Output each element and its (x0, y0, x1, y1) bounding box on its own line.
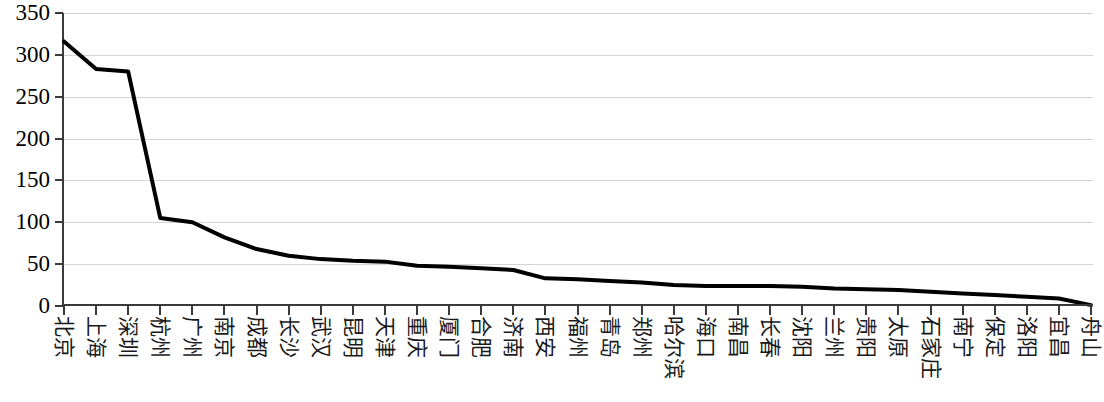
x-axis-tickmark (288, 306, 290, 315)
x-axis-tick-label: 石家庄 (918, 316, 944, 402)
y-axis-tick-label: 100 (16, 210, 51, 233)
y-axis-tickmark (55, 179, 63, 181)
x-axis-tickmark (930, 306, 932, 315)
y-axis-tick-label: 150 (16, 168, 51, 191)
x-axis-tick-label: 上海 (83, 316, 109, 402)
x-axis-tick-label: 哈尔滨 (661, 316, 687, 402)
x-axis-tick-label: 郑州 (629, 316, 655, 402)
y-axis-tickmark (55, 221, 63, 223)
x-axis-tickmark (480, 306, 482, 315)
x-axis-tick-label: 南宁 (950, 316, 976, 402)
x-axis-tick-label: 杭州 (147, 316, 173, 402)
x-axis-tick-label: 福州 (565, 316, 591, 402)
x-axis-tick-label: 广州 (179, 316, 205, 402)
x-axis-tick-label: 舟山 (1078, 316, 1104, 402)
x-axis-tickmark (833, 306, 835, 315)
y-axis-label-group: 050100150200250300350 (0, 0, 56, 312)
x-axis-tickmark (352, 306, 354, 315)
x-axis-label-group: 北京上海深圳杭州广州南京成都长沙武汉昆明天津重庆厦门合肥济南西安福州青岛郑州哈尔… (64, 316, 1093, 402)
x-axis-tick-label: 合肥 (468, 316, 494, 402)
x-axis-tick-label: 长沙 (276, 316, 302, 402)
x-axis-tick-label: 长春 (757, 316, 783, 402)
x-axis-tickmark (641, 306, 643, 315)
y-axis-tick-label: 50 (27, 252, 50, 275)
y-axis-tickmark (55, 96, 63, 98)
y-axis-tick-label: 200 (16, 127, 51, 150)
x-axis-tickmark (737, 306, 739, 315)
x-axis-tick-label: 济南 (500, 316, 526, 402)
x-axis-tick-label: 洛阳 (1014, 316, 1040, 402)
x-axis-tick-label: 沈阳 (789, 316, 815, 402)
x-axis-tickmark (544, 306, 546, 315)
x-axis-tick-label: 西安 (532, 316, 558, 402)
x-axis-tickmark (994, 306, 996, 315)
x-axis-tick-label: 深圳 (115, 316, 141, 402)
x-axis-tickmark (865, 306, 867, 315)
x-axis-tickmark (191, 306, 193, 315)
y-axis-tickmark (55, 12, 63, 14)
x-axis-tickmark (320, 306, 322, 315)
x-axis-tickmark (609, 306, 611, 315)
y-axis-tickmark (55, 263, 63, 265)
x-axis-tick-label: 南京 (211, 316, 237, 402)
x-axis-tickmark (897, 306, 899, 315)
x-axis-tickmark (1026, 306, 1028, 315)
x-axis-tick-label: 北京 (51, 316, 77, 402)
x-axis-tickmark (416, 306, 418, 315)
x-axis-tickmark (512, 306, 514, 315)
x-axis-tickmark (962, 306, 964, 315)
x-axis-tickmark (63, 306, 65, 315)
x-axis-tick-label: 兰州 (821, 316, 847, 402)
x-axis-tickmark (577, 306, 579, 315)
x-axis-tickmark (384, 306, 386, 315)
x-axis-tick-label: 昆明 (340, 316, 366, 402)
x-axis-tick-label: 厦门 (436, 316, 462, 402)
x-axis-tickmark (127, 306, 129, 315)
x-axis-tick-label: 海口 (693, 316, 719, 402)
x-axis-tickmark (223, 306, 225, 315)
y-axis-tickmark (55, 138, 63, 140)
x-axis-tick-label: 成都 (244, 316, 270, 402)
x-axis-tick-label: 天津 (372, 316, 398, 402)
x-axis-tickmark (705, 306, 707, 315)
y-axis-tick-label: 0 (39, 294, 51, 317)
x-axis-tick-label: 太原 (885, 316, 911, 402)
x-axis-tick-label: 重庆 (404, 316, 430, 402)
x-axis-tickmark (673, 306, 675, 315)
x-axis-tick-label: 南昌 (725, 316, 751, 402)
x-axis-tickmark (159, 306, 161, 315)
x-axis-tickmark (256, 306, 258, 315)
x-axis-tickmark (448, 306, 450, 315)
series-polyline (64, 41, 1091, 305)
y-axis-tick-label: 300 (16, 43, 51, 66)
y-axis-tick-label: 350 (16, 1, 51, 24)
x-axis-tickmark (1090, 306, 1092, 315)
plot-area (64, 13, 1093, 306)
x-axis-tickmark (1058, 306, 1060, 315)
data-series-line (64, 13, 1093, 306)
x-axis-tick-label: 武汉 (308, 316, 334, 402)
x-axis-tickmark (801, 306, 803, 315)
x-axis-tick-label: 保定 (982, 316, 1008, 402)
y-axis-tick-label: 250 (16, 85, 51, 108)
x-axis-tick-label: 宜昌 (1046, 316, 1072, 402)
x-axis-tickmark (769, 306, 771, 315)
y-axis-tickmark (55, 54, 63, 56)
x-axis-tick-label: 贵阳 (853, 316, 879, 402)
x-axis-tick-label: 青岛 (597, 316, 623, 402)
x-axis-tickmark (95, 306, 97, 315)
